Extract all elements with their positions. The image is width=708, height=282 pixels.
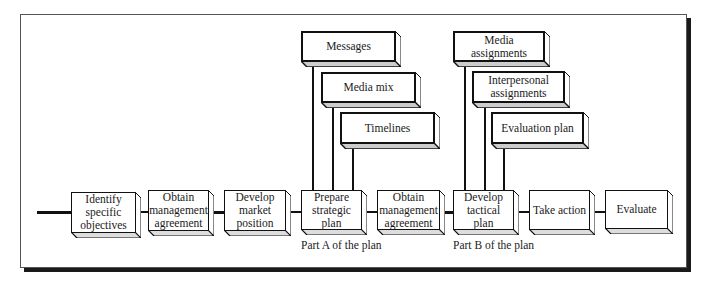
component-label: Media mix [321, 72, 416, 103]
stem-line-messages [312, 62, 314, 192]
step-label: Take action [529, 190, 590, 230]
component-evaluation-plan: Evaluation plan [491, 112, 589, 149]
step-develop-tactical-plan: Developtactical plan [453, 190, 519, 235]
step-label: Evaluate [605, 190, 668, 229]
lead-in-line [37, 211, 72, 214]
step-label: Obtainmanagementagreement [377, 190, 440, 230]
step-obtain-management-agreement-2: Obtainmanagementagreement [377, 190, 445, 235]
step-identify-objectives: Identifyspecificobjectives [71, 192, 141, 238]
part-a-caption: Part A of the plan [301, 239, 382, 251]
step-develop-market-position: Developmarketposition [224, 190, 291, 236]
component-label: Evaluation plan [491, 112, 584, 144]
component-timelines: Timelines [340, 112, 440, 149]
step-label: Developtactical plan [453, 190, 514, 230]
component-label: Timelines [340, 112, 435, 144]
step-obtain-management-agreement: Obtainmanagementagreement [148, 190, 214, 236]
step-label: Preparestrategic plan [301, 190, 362, 230]
component-label: Media assignments [453, 31, 545, 62]
step-evaluate: Evaluate [605, 190, 673, 234]
stem-line-evaluation-plan [503, 145, 505, 192]
stem-line-interpersonal [484, 103, 486, 192]
stem-line-media-assignments [464, 62, 466, 192]
stem-line-media-mix [332, 103, 334, 192]
component-label: Interpersonalassignments [472, 71, 565, 103]
step-label: Obtainmanagementagreement [148, 190, 209, 231]
step-label: Identifyspecificobjectives [71, 192, 136, 233]
step-take-action: Take action [529, 190, 595, 235]
stem-line-timelines [352, 145, 354, 192]
step-label: Developmarketposition [224, 190, 286, 231]
component-label: Messages [301, 31, 396, 62]
step-prepare-strategic-plan: Preparestrategic plan [301, 190, 367, 235]
component-messages: Messages [301, 31, 401, 67]
part-b-caption: Part B of the plan [453, 239, 534, 251]
component-media-mix: Media mix [321, 72, 421, 108]
component-interpersonal-assignments: Interpersonalassignments [472, 71, 570, 108]
component-media-assignments: Media assignments [453, 31, 550, 67]
